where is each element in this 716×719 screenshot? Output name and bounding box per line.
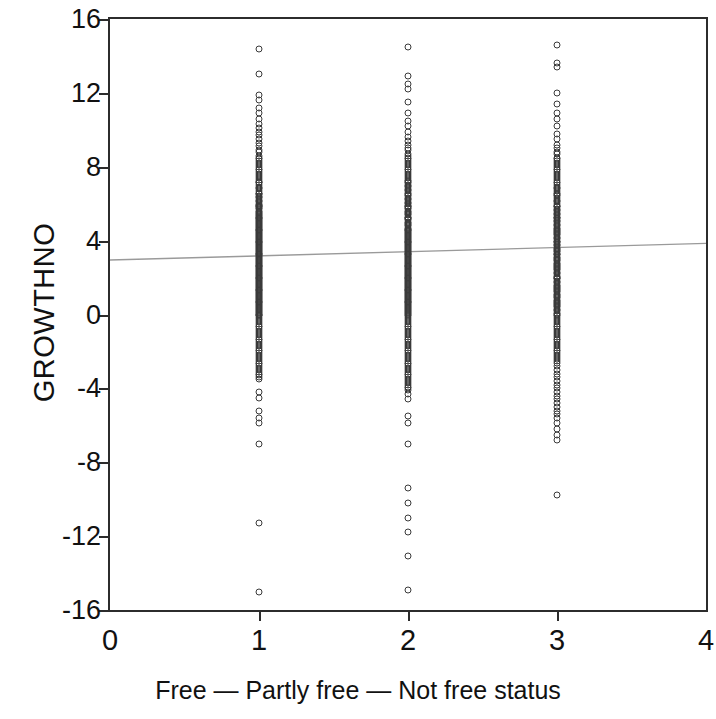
x-axis-tick	[557, 610, 559, 621]
data-point	[256, 420, 263, 427]
y-axis-tick-label: 0	[86, 299, 101, 330]
y-axis-tick-label: 8	[86, 151, 101, 182]
data-point	[405, 499, 412, 506]
scatter-plot-figure: GROWTHNO 1612840-4-8-12-1601234 Free — P…	[0, 0, 716, 719]
x-axis-tick-label: 3	[549, 624, 565, 657]
data-point	[256, 45, 263, 52]
data-point	[256, 588, 263, 595]
y-axis-tick-label: 12	[71, 77, 101, 108]
data-point	[256, 71, 263, 78]
data-point	[405, 514, 412, 521]
data-point	[405, 420, 412, 427]
data-point	[405, 485, 412, 492]
data-point	[554, 437, 561, 444]
data-point	[554, 123, 561, 130]
data-point	[554, 89, 561, 96]
y-axis-label: GROWTHNO	[28, 193, 61, 433]
data-point	[405, 529, 412, 536]
data-point	[256, 407, 263, 414]
y-axis-tick-label: 4	[86, 225, 101, 256]
data-point	[405, 553, 412, 560]
x-axis-label: Free — Partly free — Not free status	[0, 676, 716, 705]
data-point	[405, 110, 412, 117]
data-point	[256, 520, 263, 527]
x-axis-tick-label: 0	[102, 624, 118, 657]
y-axis-tick-label: -4	[77, 373, 101, 404]
y-axis-tick-label: 16	[71, 4, 101, 35]
x-axis-tick-label: 4	[698, 624, 714, 657]
data-point	[256, 394, 263, 401]
data-point	[405, 43, 412, 50]
data-point	[405, 396, 412, 403]
x-axis-tick	[408, 610, 410, 621]
data-point	[405, 586, 412, 593]
x-axis-tick	[259, 610, 261, 621]
data-point	[405, 99, 412, 106]
data-point	[256, 97, 263, 104]
x-axis-tick-label: 1	[251, 624, 267, 657]
y-axis-tick-label: -16	[62, 595, 101, 626]
data-point	[256, 376, 263, 383]
y-axis-tick-label: -8	[77, 447, 101, 478]
data-point	[405, 440, 412, 447]
x-axis-tick-label: 2	[400, 624, 416, 657]
data-point	[554, 64, 561, 71]
data-point	[554, 41, 561, 48]
data-point	[405, 73, 412, 80]
data-point	[256, 440, 263, 447]
plot-area: 1612840-4-8-12-1601234	[108, 17, 708, 612]
data-point	[554, 492, 561, 499]
y-axis-tick-label: -12	[62, 521, 101, 552]
data-point	[554, 100, 561, 107]
data-point	[405, 413, 412, 420]
data-point	[554, 115, 561, 122]
data-point	[405, 86, 412, 93]
